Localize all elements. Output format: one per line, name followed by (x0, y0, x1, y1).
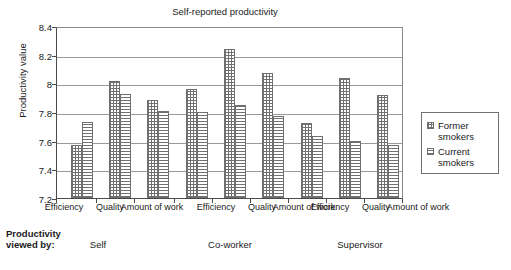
category-label-amount: Amount of work (386, 202, 450, 213)
plot-area (56, 27, 403, 199)
group-label-supervisor: Supervisor (315, 239, 405, 250)
y-tick-label: 7.4 (26, 165, 52, 176)
bar-current-smokers-amount-of-work-2 (158, 111, 169, 198)
y-tick-label: 7.8 (26, 108, 52, 119)
y-tick-label: 7.6 (26, 136, 52, 147)
bar-former-smokers-quality-1 (109, 81, 120, 198)
bar-former-smokers-amount-of-work-2 (147, 100, 158, 198)
bar-current-smokers-quality-4 (235, 105, 246, 199)
bar-series-container (57, 28, 402, 198)
category-label-amount: Amount of work (120, 202, 184, 213)
y-tick-label: 8.4 (26, 22, 52, 33)
y-tick-label: 8.2 (26, 50, 52, 61)
chart-title: Self-reported productivity (45, 6, 405, 17)
bar-former-smokers-efficiency-6 (301, 123, 312, 198)
y-tick-label: 8 (26, 79, 52, 90)
bar-former-smokers-quality-7 (339, 78, 350, 198)
bar-former-smokers-quality-4 (224, 49, 235, 198)
bar-former-smokers-amount-of-work-8 (377, 95, 388, 198)
legend-label-current: Current smokers (438, 147, 474, 168)
bar-current-smokers-efficiency-0 (82, 122, 93, 199)
legend-item-former: Former smokers (427, 121, 474, 142)
group-label-self: Self (53, 239, 143, 250)
legend-swatch-former-icon (427, 122, 434, 129)
y-axis-tick-labels: 8.4 8.2 8 7.8 7.6 7.4 7.2 (22, 27, 52, 199)
group-label-coworker: Co-worker (185, 239, 275, 250)
legend-item-current: Current smokers (427, 147, 474, 168)
legend: Former smokers Current smokers (421, 112, 499, 174)
figure-caption (14, 262, 504, 270)
legend-swatch-current-icon (427, 148, 434, 155)
bar-current-smokers-amount-of-work-8 (388, 145, 399, 198)
bar-former-smokers-efficiency-3 (186, 89, 197, 198)
bar-former-smokers-amount-of-work-5 (262, 73, 273, 198)
bar-current-smokers-quality-7 (350, 141, 361, 198)
chart-figure: Self-reported productivity Productivity … (0, 0, 511, 270)
legend-label-former: Former smokers (438, 121, 474, 142)
bar-current-smokers-efficiency-3 (197, 112, 208, 198)
bar-current-smokers-amount-of-work-5 (273, 116, 284, 198)
bar-current-smokers-efficiency-6 (312, 136, 323, 198)
bar-current-smokers-quality-1 (120, 94, 131, 198)
bar-former-smokers-efficiency-0 (71, 145, 82, 198)
